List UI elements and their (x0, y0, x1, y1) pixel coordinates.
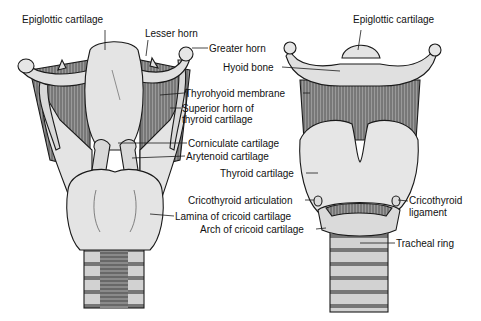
anterior-view (284, 42, 441, 312)
larynx-diagram: Epiglottic cartilage Lesser horn Greater… (0, 0, 481, 321)
label-hyoid-bone: Hyoid bone (223, 62, 274, 73)
label-greater-horn: Greater horn (209, 43, 266, 54)
label-cricothyroid-articulation: Cricothyroid articulation (188, 195, 293, 206)
label-arch-cricoid: Arch of cricoid cartilage (200, 224, 304, 235)
label-superior-horn-line1: Superior horn of (182, 103, 254, 114)
label-lesser-horn: Lesser horn (145, 28, 198, 39)
label-thyrohyoid-membrane: Thyrohyoid membrane (185, 88, 285, 99)
label-epiglottic-cartilage-right: Epiglottic cartilage (353, 14, 434, 25)
label-tracheal-ring: Tracheal ring (396, 238, 454, 249)
label-superior-horn-line2: thyroid cartilage (182, 114, 253, 125)
posterior-view (18, 42, 193, 308)
label-lamina-cricoid: Lamina of cricoid cartilage (175, 211, 291, 222)
label-thyroid-cartilage: Thyroid cartilage (220, 168, 294, 179)
label-epiglottic-cartilage-left: Epiglottic cartilage (22, 14, 103, 25)
label-cricothyroid-ligament-line2: ligament (409, 207, 447, 218)
label-cricothyroid-ligament-line1: Cricothyroid (409, 195, 462, 206)
label-arytenoid-cartilage: Arytenoid cartilage (186, 151, 269, 162)
label-corniculate-cartilage: Corniculate cartilage (188, 138, 279, 149)
